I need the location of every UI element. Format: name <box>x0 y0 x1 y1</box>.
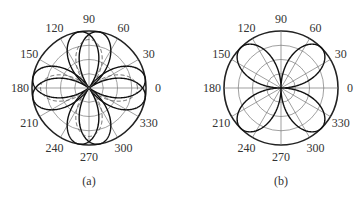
angle-tick-label: 90 <box>275 12 287 26</box>
angle-tick-label: 270 <box>80 150 98 164</box>
angle-tick-label: 240 <box>46 141 64 155</box>
angle-tick-label: 210 <box>20 116 38 130</box>
angle-tick-label: 60 <box>310 21 322 35</box>
angle-tick-label: 120 <box>238 21 256 35</box>
angle-tick-label: 30 <box>143 47 155 61</box>
angle-tick-label: 300 <box>307 141 325 155</box>
polar-figure: 0306090120150180210240270300330 03060901… <box>0 0 363 198</box>
angle-tick-label: 330 <box>140 116 158 130</box>
angle-tick-label: 210 <box>212 116 230 130</box>
angle-tick-label: 150 <box>20 47 38 61</box>
angle-tick-label: 150 <box>212 47 230 61</box>
panel-label-b: (b) <box>274 174 288 188</box>
angle-tick-label: 270 <box>272 150 290 164</box>
angle-tick-label: 180 <box>203 81 221 95</box>
angle-tick-label: 120 <box>46 21 64 35</box>
angle-tick-label: 60 <box>118 21 130 35</box>
polar-plot-b: 0306090120150180210240270300330 <box>203 12 353 164</box>
angle-tick-label: 240 <box>238 141 256 155</box>
angle-tick-label: 30 <box>335 47 347 61</box>
angle-tick-label: 180 <box>11 81 29 95</box>
angle-tick-label: 300 <box>115 141 133 155</box>
angle-tick-label: 0 <box>347 81 353 95</box>
angle-tick-label: 90 <box>83 12 95 26</box>
angle-tick-label: 330 <box>332 116 350 130</box>
angle-tick-label: 0 <box>155 81 161 95</box>
polar-plot-a: 0306090120150180210240270300330 <box>11 12 161 164</box>
panel-label-a: (a) <box>82 174 95 188</box>
